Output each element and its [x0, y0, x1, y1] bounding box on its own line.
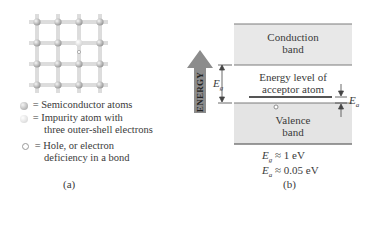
- acceptor-level-label: Energy level of acceptor atom: [234, 71, 352, 95]
- energy-label: ENERGY: [195, 71, 205, 113]
- conduction-band-line1: Conduction: [234, 31, 352, 43]
- eq1-value: 1 eV: [284, 149, 305, 161]
- valence-band-line2: band: [234, 126, 352, 138]
- eg-label: Eg: [213, 77, 223, 92]
- eq1-symbol: E: [262, 149, 269, 161]
- caption-b: (b): [283, 178, 296, 190]
- conduction-band-label: Conduction band: [234, 31, 352, 55]
- eq1-relation: ≈: [275, 149, 281, 161]
- eg-subscript: g: [220, 84, 224, 92]
- valence-band-label: Valence band: [234, 114, 352, 138]
- valence-band-line1: Valence: [234, 114, 352, 126]
- conduction-band-line2: band: [234, 43, 352, 55]
- eg-symbol: E: [213, 77, 220, 89]
- eq2-value: 0.05 eV: [284, 164, 319, 176]
- energy-label-box: ENERGY: [194, 71, 206, 113]
- eq1-subscript: g: [269, 156, 273, 164]
- ea-equation: Ea ≈ 0.05 eV: [262, 164, 319, 179]
- eg-equation: Eg ≈ 1 eV: [262, 149, 305, 164]
- ea-label: Ea: [349, 94, 359, 109]
- ea-symbol: E: [349, 94, 356, 106]
- acceptor-level-line1: Energy level of: [234, 71, 352, 83]
- eq2-relation: ≈: [275, 164, 281, 176]
- acceptor-level-line2: acceptor atom: [234, 83, 352, 95]
- hole-marker: [274, 105, 278, 109]
- eq2-symbol: E: [262, 164, 269, 176]
- eq2-subscript: a: [269, 171, 273, 179]
- ea-subscript: a: [356, 101, 360, 109]
